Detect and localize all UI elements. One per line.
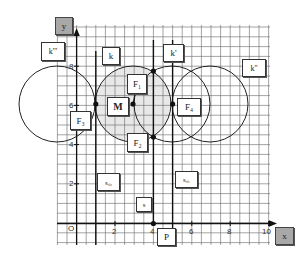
point-f1 xyxy=(151,68,156,73)
point-f2 xyxy=(151,134,156,139)
y-tick-2: 2 xyxy=(69,179,73,188)
x-tick-2: 2 xyxy=(112,227,116,236)
x-axis-label: x xyxy=(275,227,294,245)
label-m: M xyxy=(107,97,129,116)
x-tick-6: 6 xyxy=(189,227,193,236)
label-f4: F₄ xyxy=(177,98,201,116)
label-p: P xyxy=(157,228,176,246)
label-k: k xyxy=(102,47,120,65)
label-f2: F₂ xyxy=(127,133,148,152)
label-f1: F₁ xyxy=(127,74,147,94)
label-k2: k'' xyxy=(242,59,266,77)
point-f4 xyxy=(170,101,175,106)
label-sc1: s꜀₁ xyxy=(175,171,198,188)
point-m xyxy=(130,101,135,106)
y-tick-6: 6 xyxy=(69,101,73,110)
circle-k3 xyxy=(19,66,95,142)
point xyxy=(93,101,98,106)
label-k3: k''' xyxy=(41,42,65,61)
x-tick-8: 8 xyxy=(227,227,231,236)
y-axis-arrow-icon xyxy=(73,28,79,36)
label-sc2: s꜀₂ xyxy=(97,173,120,191)
x-tick-4: 4 xyxy=(150,227,154,236)
label-s: s xyxy=(136,197,152,212)
origin-label: O xyxy=(68,224,74,233)
x-tick-10: 10 xyxy=(262,227,271,236)
diagram-canvas xyxy=(0,0,308,260)
y-tick-4: 4 xyxy=(69,140,73,149)
label-k1: k' xyxy=(163,44,184,62)
y-axis-label: y xyxy=(55,17,73,35)
x-axis-arrow-icon xyxy=(269,220,277,226)
y-tick-8: 8 xyxy=(69,62,73,71)
label-f3: F₃ xyxy=(70,111,91,130)
